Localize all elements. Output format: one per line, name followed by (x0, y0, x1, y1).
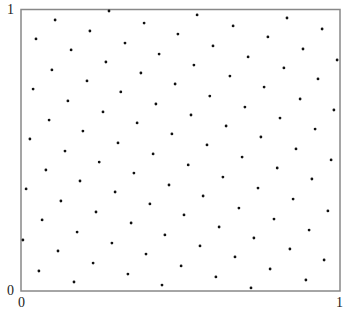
y-tick-label-max: 1 (7, 3, 14, 17)
data-point (41, 219, 44, 222)
data-point (250, 287, 253, 290)
data-point (222, 176, 225, 179)
data-point (64, 150, 67, 153)
data-point (164, 234, 167, 237)
data-point (232, 25, 235, 28)
data-point (48, 119, 51, 122)
data-point (127, 273, 130, 276)
data-point (29, 138, 32, 141)
data-point (289, 248, 292, 251)
data-point (70, 49, 73, 52)
data-point (177, 33, 180, 36)
data-point (295, 148, 298, 151)
data-point (136, 122, 139, 125)
data-point (212, 45, 215, 48)
data-point (105, 61, 108, 64)
data-point (283, 67, 286, 70)
data-point (244, 106, 247, 109)
data-point (308, 229, 311, 232)
data-point (92, 262, 95, 265)
data-point (67, 100, 70, 103)
data-point (38, 270, 41, 273)
data-point (234, 256, 237, 259)
data-point (190, 114, 193, 117)
plot-frame (21, 10, 340, 292)
data-point (276, 167, 279, 170)
data-point (323, 259, 326, 262)
data-point (133, 172, 136, 175)
data-point (238, 207, 241, 210)
data-point (54, 19, 57, 22)
data-points (22, 10, 339, 290)
data-point (155, 103, 158, 106)
data-point (193, 64, 196, 67)
data-point (218, 226, 221, 229)
data-point (130, 222, 133, 225)
data-point (336, 59, 339, 62)
data-point (279, 117, 282, 120)
data-point (89, 30, 92, 33)
data-point (174, 83, 177, 86)
data-point (302, 48, 305, 51)
data-point (269, 268, 272, 271)
data-point (273, 218, 276, 221)
data-point (79, 180, 82, 183)
data-point (95, 211, 98, 214)
data-point (158, 53, 161, 56)
data-point (57, 250, 60, 253)
data-point (168, 184, 171, 187)
y-tick-label-min: 0 (7, 284, 14, 298)
data-point (208, 95, 211, 98)
data-point (330, 159, 333, 162)
data-point (76, 231, 79, 234)
data-point (225, 125, 228, 128)
data-point (124, 42, 127, 45)
data-point (263, 86, 266, 89)
data-point (25, 188, 28, 191)
data-point (314, 128, 317, 131)
data-point (187, 164, 190, 167)
data-point (117, 142, 120, 145)
data-point (111, 242, 114, 245)
data-point (267, 36, 270, 39)
data-point (305, 279, 308, 282)
data-point (119, 91, 122, 94)
data-point (82, 130, 85, 133)
data-point (60, 200, 63, 203)
data-point (73, 281, 76, 284)
data-point (98, 161, 101, 164)
data-point (171, 133, 174, 136)
data-point (202, 195, 205, 198)
data-point (229, 75, 232, 78)
x-tick-label-max: 1 (336, 296, 343, 310)
data-point (114, 191, 117, 194)
data-point (253, 237, 256, 240)
data-point (108, 10, 111, 13)
data-point (140, 72, 143, 75)
data-point (199, 245, 202, 248)
data-point (327, 210, 330, 213)
data-point (32, 88, 35, 91)
data-point (215, 276, 218, 279)
data-point (321, 28, 324, 31)
x-tick-label-min: 0 (18, 296, 25, 310)
data-point (102, 111, 105, 114)
data-point (311, 178, 314, 181)
data-point (257, 187, 260, 190)
data-point (317, 78, 320, 81)
data-point (286, 17, 289, 20)
scatter-plot (0, 0, 351, 314)
data-point (51, 69, 54, 72)
data-point (183, 214, 186, 217)
data-point (241, 156, 244, 159)
data-point (149, 203, 152, 206)
data-point (299, 98, 302, 101)
data-point (161, 284, 164, 287)
data-point (206, 144, 209, 147)
data-point (22, 239, 25, 242)
data-point (152, 153, 155, 156)
data-point (35, 38, 38, 41)
data-point (260, 136, 263, 139)
data-point (143, 22, 146, 25)
data-point (145, 253, 148, 256)
